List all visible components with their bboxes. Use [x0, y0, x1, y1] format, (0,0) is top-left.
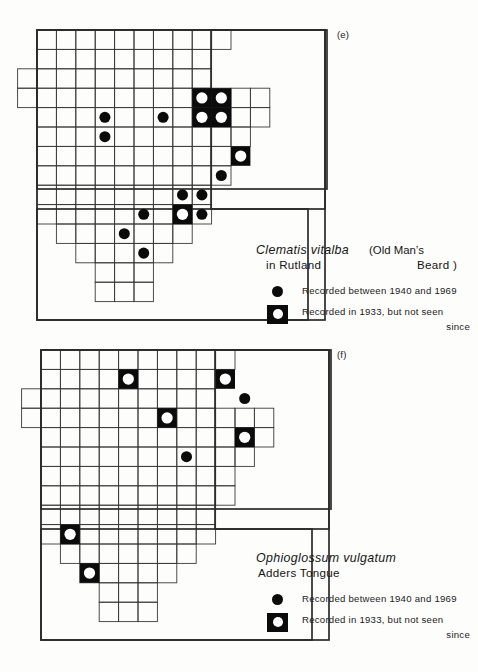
map-legend-e: Clematis vitalba (Old Man’s in Rutland B…: [256, 243, 472, 325]
species-scientific-name: Clematis vitalba: [256, 243, 349, 257]
distribution-map-panel-e: (e) Clematis vitalba (Old Man’s in Rutla…: [0, 0, 478, 336]
filled-dot-icon: [272, 594, 283, 605]
legend-label-historic-cont: since: [446, 321, 470, 332]
species-line: Clematis vitalba (Old Man’s: [256, 243, 472, 258]
species-subline: in Rutland Beard ): [256, 258, 472, 274]
legend-label-recent: Recorded between 1940 and 1969: [302, 593, 457, 604]
species-scientific-name: Ophioglossum vulgatum: [256, 551, 396, 565]
legend-row-historic: Recorded in 1933, but not seen since: [256, 304, 472, 325]
distribution-map-panel-f: (f) Ophioglossum vulgatum Adders Tongue …: [0, 336, 478, 672]
species-common-name: Adders Tongue: [258, 566, 340, 579]
species-area: in Rutland: [266, 258, 321, 271]
filled-dot-icon: [272, 286, 283, 297]
legend-label-historic-cont: since: [446, 629, 470, 640]
legend-label-historic: Recorded in 1933, but not seen: [302, 306, 443, 317]
white-dot-in-black-square-icon: [267, 305, 288, 324]
map-legend-f: Ophioglossum vulgatum Adders Tongue Reco…: [256, 551, 472, 633]
legend-label-recent: Recorded between 1940 and 1969: [302, 285, 457, 296]
species-common-name-open: (Old Man’s: [369, 244, 424, 256]
legend-row-historic: Recorded in 1933, but not seen since: [256, 612, 472, 633]
legend-label-historic: Recorded in 1933, but not seen: [302, 614, 443, 625]
white-dot-in-black-square-icon: [267, 613, 288, 632]
legend-key: Recorded between 1940 and 1969 Recorded …: [256, 591, 472, 633]
legend-key: Recorded between 1940 and 1969 Recorded …: [256, 283, 472, 325]
legend-row-recent: Recorded between 1940 and 1969: [256, 283, 472, 304]
species-subline: Adders Tongue: [256, 566, 472, 582]
species-line: Ophioglossum vulgatum: [256, 551, 472, 566]
species-common-name-close: Beard ): [417, 258, 457, 271]
figure-page: (e) Clematis vitalba (Old Man’s in Rutla…: [0, 0, 478, 672]
legend-row-recent: Recorded between 1940 and 1969: [256, 591, 472, 612]
